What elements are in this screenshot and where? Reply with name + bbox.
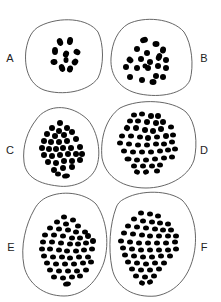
chromosome-blob xyxy=(65,151,71,157)
chromosome-blob xyxy=(121,149,127,154)
chromosome-blob xyxy=(155,214,161,219)
chromosome-blob xyxy=(158,126,164,132)
chromosome-blob xyxy=(53,262,59,267)
chromosome-blob xyxy=(147,248,153,253)
chromosome-blob xyxy=(61,132,67,138)
chromosome-blob xyxy=(56,128,62,134)
chromosome-blob xyxy=(168,125,174,130)
chromosome-blob xyxy=(41,138,47,144)
chromosome-blob xyxy=(156,234,162,239)
chromosome-blob xyxy=(73,136,79,142)
chromosome-blob xyxy=(133,125,139,131)
chromosome-blob xyxy=(137,135,143,140)
chromosome-blob xyxy=(148,113,154,119)
chromosome-blob xyxy=(48,139,54,145)
chromosome-blob xyxy=(136,241,142,246)
chromosome-blob xyxy=(131,217,137,222)
chromosome-blob xyxy=(64,125,70,131)
chromosome-blob xyxy=(61,158,67,164)
cell-a: A xyxy=(6,20,102,93)
chromosome-blob xyxy=(69,129,75,135)
chromosome-blob xyxy=(60,276,66,281)
chromosome-blob xyxy=(67,242,73,247)
chromosome-blob xyxy=(139,233,145,238)
chromosome-blob xyxy=(123,64,129,70)
chromosome-blob xyxy=(121,231,127,236)
chromosome-blob xyxy=(57,152,63,158)
chromosome-blob xyxy=(156,267,162,272)
chromosome-blob xyxy=(49,153,55,159)
chromosome-blob xyxy=(163,241,169,246)
chromosome-blob xyxy=(143,158,149,163)
chromosome-blob xyxy=(85,255,91,260)
chromosome-blob xyxy=(44,261,50,266)
chromosome-blob xyxy=(160,119,166,125)
chromosome-blob xyxy=(144,143,150,148)
chromosome-blob xyxy=(88,260,94,265)
chromosome-blob xyxy=(143,64,148,69)
chromosome-blob xyxy=(49,240,55,245)
chromosome-blob xyxy=(155,113,161,119)
chromosome-blob xyxy=(42,233,48,238)
chromosome-blob xyxy=(56,269,62,274)
cell-d: D xyxy=(102,102,208,188)
chromosome-blob xyxy=(62,262,68,267)
chromosome-blob xyxy=(125,224,131,229)
chromosome-blob xyxy=(160,228,166,233)
chromosome-blob xyxy=(58,241,64,246)
chromosome-blob xyxy=(155,63,161,69)
chromosome-blob xyxy=(44,131,50,137)
chromosome-blob xyxy=(64,249,70,254)
chromosome-blob xyxy=(173,247,179,252)
chromosome-blob xyxy=(71,262,77,267)
chromosome-blob xyxy=(161,142,167,147)
chromosome-blob xyxy=(165,148,171,153)
chromosome-blob xyxy=(81,248,87,253)
chromosome-blob xyxy=(125,157,132,162)
chromosome-blob xyxy=(53,146,59,152)
chromosome-blob xyxy=(153,73,159,79)
chromosome-blob xyxy=(145,135,151,141)
chromosome-blob xyxy=(143,262,149,267)
chromosome-blob xyxy=(53,160,59,166)
chromosome-blob xyxy=(68,145,74,151)
chromosome-blob xyxy=(80,261,86,266)
chromosome-blob xyxy=(160,74,166,80)
chromosome-blob xyxy=(47,268,53,273)
chromosome-blob xyxy=(65,228,71,233)
chromosome-blob xyxy=(54,220,60,225)
chromosome-blob xyxy=(60,234,66,239)
chromosome-blob xyxy=(157,163,163,168)
chromosome-blob xyxy=(83,268,89,273)
chromosome-blob xyxy=(41,254,47,259)
chromosome-blob xyxy=(170,133,176,138)
chromosome-blob xyxy=(51,275,57,280)
chromosome-blob xyxy=(133,274,139,279)
chromosome-blob xyxy=(153,142,159,147)
chromosome-blob xyxy=(140,255,146,260)
chromosome-blob xyxy=(73,151,79,157)
chromosome-blob xyxy=(131,164,137,169)
cell-e-outline xyxy=(23,193,107,296)
chromosome-blob xyxy=(154,135,160,140)
chromosome-blob xyxy=(135,119,141,124)
chromosome-blob xyxy=(138,268,144,273)
chromosome-blob xyxy=(77,157,83,163)
chromosome-blob xyxy=(149,255,155,260)
chromosome-blob xyxy=(149,164,155,169)
chromosome-blob xyxy=(157,221,163,226)
cell-b-label: B xyxy=(200,52,207,64)
chromosome-blob xyxy=(90,238,96,244)
chromosome-blob xyxy=(147,268,153,273)
chromosome-blob xyxy=(40,240,46,245)
cell-b: B xyxy=(111,19,208,95)
chromosome-blob xyxy=(151,274,157,279)
chromosome-blob xyxy=(169,140,175,145)
chromosome-blob xyxy=(152,227,158,232)
chromosome-blob xyxy=(143,226,149,231)
chromosome-blob xyxy=(139,112,145,117)
chromosome-blob xyxy=(152,261,158,266)
chromosome-blob xyxy=(129,247,135,252)
chromosome-blob xyxy=(120,246,126,251)
chromosome-blob xyxy=(134,46,140,52)
